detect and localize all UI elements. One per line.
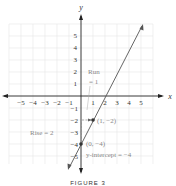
plotted-line (68, 24, 144, 170)
figure-caption: FIGURE 3 (0, 180, 176, 186)
x-tick: 4 (127, 99, 131, 107)
run-label: Run (88, 68, 100, 76)
x-tick: 1 (91, 99, 95, 107)
y-tick: 2 (74, 68, 78, 76)
x-tick: −4 (29, 99, 37, 107)
run-value: = 1 (89, 78, 99, 86)
x-tick-labels: −5 −4 −3 −2 −1 1 2 3 4 5 (17, 99, 143, 107)
y-tick: 5 (74, 32, 78, 40)
y-tick: −1 (71, 105, 79, 113)
x-tick: 5 (139, 99, 143, 107)
y-tick: −3 (71, 129, 79, 137)
y-tick: 3 (74, 56, 78, 64)
x-axis: x (2, 92, 172, 101)
y-tick: 4 (74, 44, 78, 52)
y-intercept-label: y-intercept = −4 (86, 151, 132, 159)
y-tick: −2 (71, 117, 79, 125)
y-axis-down-arrow-icon (79, 168, 83, 174)
y-tick-labels: 1 2 3 4 5 −1 −2 −3 −4 −5 (71, 32, 79, 161)
x-tick: −5 (17, 99, 25, 107)
rise-label: Rise = 2 (30, 129, 54, 137)
y-tick: 1 (74, 80, 78, 88)
coordinate-graph: x y −5 −4 −3 −2 −1 1 2 3 4 5 1 2 3 4 (0, 0, 176, 186)
point-0-neg4 (79, 142, 83, 146)
y-tick: −4 (71, 141, 79, 149)
point-label-0-neg4: (0, −4) (86, 140, 106, 148)
x-axis-right-arrow-icon (158, 94, 164, 98)
x-axis-left-arrow-icon (2, 94, 8, 98)
x-tick: −2 (53, 99, 61, 107)
graph-svg: x y −5 −4 −3 −2 −1 1 2 3 4 5 1 2 3 4 (0, 0, 176, 186)
y-axis-up-arrow-icon (79, 14, 83, 20)
run-leader-line (87, 86, 90, 110)
x-tick: 3 (115, 99, 119, 107)
x-tick: −3 (41, 99, 49, 107)
y-axis-label: y (78, 3, 83, 12)
point-label-1-neg2: (1, −2) (97, 117, 117, 125)
x-axis-label: x (167, 92, 172, 101)
point-1-neg2 (91, 118, 95, 122)
